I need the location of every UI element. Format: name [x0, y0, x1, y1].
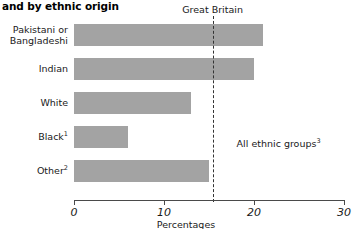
great-britain-reference-line [213, 16, 214, 202]
x-axis-title: Percentages [157, 219, 215, 229]
bar-other [74, 160, 209, 182]
x-axis-tick [164, 200, 165, 205]
x-axis-tick-label: 0 [71, 206, 78, 219]
category-label-line-1: Pakistani or [0, 24, 68, 35]
category-label-indian: Indian [0, 63, 68, 74]
x-axis-tick-label: 10 [157, 206, 171, 219]
category-label-other: Other2 [0, 165, 68, 176]
bar-black [74, 126, 128, 148]
plot-area [74, 24, 344, 200]
category-label-white: White [0, 97, 68, 108]
bar-white [74, 92, 191, 114]
x-axis-tick-label: 30 [337, 206, 351, 219]
bar-pakistani-or-bangladeshi [74, 24, 263, 46]
x-axis-tick [254, 200, 255, 205]
bar-row [74, 92, 344, 114]
footnote-marker-3: 3 [316, 137, 320, 145]
x-axis-line [74, 200, 344, 201]
ethnic-origin-bar-chart: and by ethnic origin Pakistani or Bangla… [0, 0, 352, 229]
all-ethnic-groups-annotation: All ethnic groups3 [237, 138, 321, 149]
footnote-marker-2: 2 [64, 164, 68, 172]
x-axis-tick-label: 20 [247, 206, 261, 219]
category-axis-labels: Pakistani or Bangladeshi Indian White Bl… [0, 24, 70, 200]
bar-row [74, 160, 344, 182]
footnote-marker-1: 1 [64, 130, 68, 138]
great-britain-label: Great Britain [182, 4, 243, 15]
bar-indian [74, 58, 254, 80]
x-axis-tick [344, 200, 345, 205]
bar-row [74, 24, 344, 46]
bar-row [74, 58, 344, 80]
x-axis-tick [74, 200, 75, 205]
category-label-black: Black1 [0, 131, 68, 142]
category-label-line-2: Bangladeshi [0, 35, 68, 46]
chart-title: and by ethnic origin [2, 0, 119, 12]
all-ethnic-groups-text: All ethnic groups [237, 138, 317, 149]
category-label-pakistani-or-bangladeshi: Pakistani or Bangladeshi [0, 24, 68, 46]
